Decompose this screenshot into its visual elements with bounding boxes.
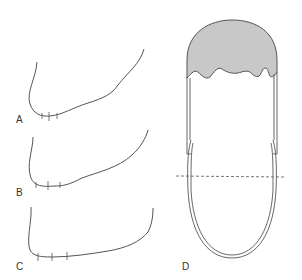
panel-c: C: [16, 207, 153, 272]
curve-c: [29, 207, 153, 257]
u-tube-outer: [188, 140, 277, 258]
u-tube-inner: [191, 143, 273, 255]
label-a: A: [16, 114, 23, 125]
panel-b: B: [16, 130, 148, 198]
curve-b: [29, 130, 148, 186]
diagram-canvas: A B C: [0, 0, 302, 280]
shaded-dome: [187, 20, 277, 78]
panel-d: D: [176, 20, 286, 272]
panel-a: A: [16, 49, 144, 125]
label-c: C: [16, 261, 23, 272]
tube-walls: [187, 72, 277, 154]
dashed-reference-line: [176, 176, 286, 177]
label-b: B: [16, 187, 23, 198]
label-d: D: [182, 261, 189, 272]
curve-a: [29, 49, 144, 116]
